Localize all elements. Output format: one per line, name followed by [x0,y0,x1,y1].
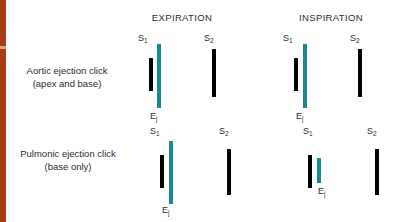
bar-pulmonic-ejection-click-inspiration-s2 [375,149,379,195]
sound-label-pulmonic-ejection-click-expiration-ej: Ej [162,205,169,215]
bar-aortic-ejection-click-inspiration-s1 [294,58,298,91]
sound-label-pulmonic-ejection-click-expiration-s1: S1 [150,126,160,136]
left-accent-bar [0,0,6,222]
row-label-aortic-line1: Aortic ejection click [8,65,126,78]
sound-label-pulmonic-ejection-click-inspiration-s1: S1 [303,126,313,136]
sound-label-pulmonic-ejection-click-inspiration-s2: S2 [367,126,377,136]
bar-pulmonic-ejection-click-inspiration-s1 [308,155,312,188]
sound-label-aortic-ejection-click-inspiration-s1: S1 [283,33,293,43]
bar-aortic-ejection-click-expiration-ej [157,44,161,108]
row-label-pulmonic-line2: (base only) [6,161,130,174]
row-label-aortic-line2: (apex and base) [8,78,126,91]
row-label-pulmonic-line1: Pulmonic ejection click [6,148,130,161]
column-heading-expiration: EXPIRATION [142,12,222,23]
column-heading-inspiration: INSPIRATION [288,12,374,23]
left-accent-bar-notch [0,46,6,49]
sound-label-pulmonic-ejection-click-expiration-s2: S2 [219,126,229,136]
sound-label-aortic-ejection-click-inspiration-s2: S2 [350,33,360,43]
bar-aortic-ejection-click-inspiration-s2 [358,49,362,97]
sound-label-aortic-ejection-click-expiration-s1: S1 [138,33,148,43]
bar-pulmonic-ejection-click-expiration-s1 [160,155,164,188]
bar-aortic-ejection-click-expiration-s1 [149,58,153,91]
figure-canvas: EXPIRATION INSPIRATION Aortic ejection c… [0,0,409,222]
bar-pulmonic-ejection-click-expiration-s2 [227,149,231,195]
sound-label-aortic-ejection-click-expiration-ej: Ej [150,111,157,121]
sound-label-aortic-ejection-click-expiration-s2: S2 [204,33,214,43]
bar-aortic-ejection-click-inspiration-ej [303,44,307,108]
bar-pulmonic-ejection-click-inspiration-ej [317,158,321,183]
row-label-aortic-ejection-click: Aortic ejection click (apex and base) [8,65,126,90]
sound-label-aortic-ejection-click-inspiration-ej: Ej [296,111,303,121]
sound-label-pulmonic-ejection-click-inspiration-ej: Ej [318,186,325,196]
bar-pulmonic-ejection-click-expiration-ej [169,141,173,204]
bar-aortic-ejection-click-expiration-s2 [212,49,216,97]
row-label-pulmonic-ejection-click: Pulmonic ejection click (base only) [6,148,130,173]
